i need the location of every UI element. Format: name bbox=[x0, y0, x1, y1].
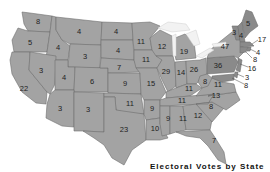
label-me: 5 bbox=[246, 19, 250, 28]
label-nm: 3 bbox=[86, 105, 90, 114]
map-caption: Electoral Votes by State bbox=[150, 162, 265, 171]
label-tn: 11 bbox=[178, 96, 186, 105]
label-sc: 8 bbox=[209, 102, 213, 111]
leader-line-de bbox=[237, 74, 244, 77]
label-al: 11 bbox=[179, 114, 187, 123]
label-mo: 15 bbox=[147, 79, 155, 88]
label-nj: 16 bbox=[248, 64, 256, 73]
label-sd: 4 bbox=[116, 46, 120, 55]
label-la: 10 bbox=[151, 124, 159, 133]
leader-line-ct bbox=[246, 52, 252, 58]
leader-line-md bbox=[232, 78, 244, 84]
label-fl: 7 bbox=[212, 136, 216, 145]
label-wv: 8 bbox=[203, 77, 207, 86]
label-mn: 11 bbox=[137, 37, 145, 46]
label-ct: 8 bbox=[253, 55, 257, 64]
label-wy: 3 bbox=[83, 52, 87, 61]
label-va: 11 bbox=[214, 80, 222, 89]
label-wa: 8 bbox=[36, 17, 40, 26]
state-ma[interactable] bbox=[240, 42, 254, 47]
label-tx: 23 bbox=[120, 125, 128, 134]
label-ut: 4 bbox=[62, 73, 66, 82]
label-ia: 11 bbox=[142, 55, 150, 64]
label-co: 6 bbox=[90, 77, 94, 86]
label-ny: 47 bbox=[221, 42, 229, 51]
label-il: 29 bbox=[162, 67, 170, 76]
state-ct[interactable] bbox=[240, 47, 248, 53]
label-mi: 19 bbox=[180, 47, 188, 56]
label-id: 4 bbox=[56, 43, 60, 52]
label-nv: 3 bbox=[39, 66, 43, 75]
label-ca: 22 bbox=[20, 84, 28, 93]
label-ar: 9 bbox=[150, 104, 154, 113]
label-or: 5 bbox=[28, 38, 32, 47]
label-ok: 11 bbox=[126, 99, 134, 108]
label-in: 14 bbox=[177, 68, 185, 77]
label-wi: 12 bbox=[158, 42, 166, 51]
label-ga: 12 bbox=[194, 111, 202, 120]
state-pa[interactable] bbox=[207, 56, 238, 74]
state-de[interactable] bbox=[234, 72, 238, 78]
label-vt: 3 bbox=[232, 28, 236, 37]
label-nc: 13 bbox=[212, 91, 220, 100]
label-pa: 36 bbox=[214, 61, 222, 70]
label-nd: 4 bbox=[114, 27, 118, 36]
label-md: 8 bbox=[244, 81, 248, 90]
label-ks: 9 bbox=[123, 79, 127, 88]
label-nh: 4 bbox=[239, 31, 243, 40]
label-ms: 9 bbox=[166, 114, 170, 123]
lake-superior bbox=[158, 22, 190, 32]
label-ky: 11 bbox=[185, 84, 193, 93]
label-az: 3 bbox=[58, 104, 62, 113]
label-oh: 26 bbox=[190, 65, 198, 74]
lake-michigan bbox=[172, 34, 176, 56]
us-map: 8 5 22 4 3 4 3 4 6 3 3 4 4 7 9 11 23 11 … bbox=[0, 0, 270, 172]
label-ma: 17 bbox=[258, 35, 266, 44]
state-fl[interactable] bbox=[176, 130, 226, 164]
label-ne: 7 bbox=[117, 63, 121, 72]
label-mt: 4 bbox=[77, 27, 81, 36]
